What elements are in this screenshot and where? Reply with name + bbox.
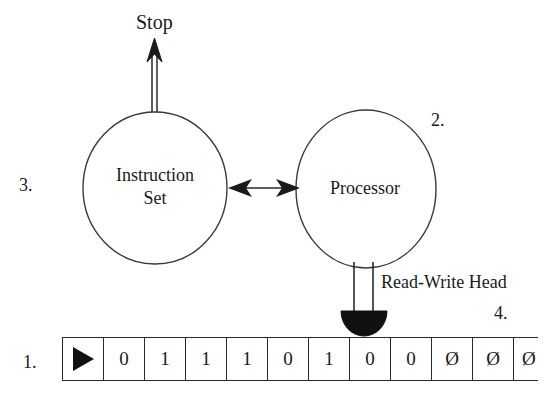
bidirectional-link-arrow	[228, 179, 300, 197]
tape-cell-value: 0	[119, 348, 129, 370]
tape-cell[interactable]: 1	[145, 338, 186, 380]
tape-cell[interactable]: 0	[104, 338, 145, 380]
head-connector	[354, 262, 373, 316]
processor-label: Processor	[313, 178, 417, 199]
tape-cell[interactable]: Ø	[514, 338, 538, 380]
tape-cell[interactable]: 1	[186, 338, 227, 380]
instruction-set-label: Instruction Set	[103, 164, 207, 209]
stop-arrow	[147, 38, 162, 113]
tape-cell-value: 0	[283, 348, 293, 370]
tape-cell-value: 0	[406, 348, 416, 370]
tape-cell-value: 1	[324, 348, 334, 370]
tape-cell-value: 0	[365, 348, 375, 370]
tape-cell[interactable]: 0	[391, 338, 432, 380]
read-write-head-label: Read-Write Head	[381, 272, 507, 293]
tape-start-marker-cell[interactable]	[63, 338, 104, 380]
instruction-set-label-line2: Set	[103, 187, 207, 210]
start-triangle-icon	[73, 347, 94, 371]
callout-2: 2.	[431, 110, 445, 131]
stop-label: Stop	[136, 11, 173, 34]
read-write-head-icon[interactable]	[341, 311, 387, 336]
tape-cell[interactable]: Ø	[473, 338, 514, 380]
instruction-set-label-line1: Instruction	[103, 164, 207, 187]
diagram-canvas: Stop Instruction Set Processor Read-Writ…	[0, 0, 558, 397]
callout-3: 3.	[19, 175, 33, 196]
callout-1: 1.	[23, 352, 37, 373]
tape-cell[interactable]: Ø	[432, 338, 473, 380]
tape-cell[interactable]: 1	[227, 338, 268, 380]
tape-cell[interactable]: 1	[309, 338, 350, 380]
tape-cell[interactable]: 0	[268, 338, 309, 380]
tape-cell-value: Ø	[522, 348, 536, 370]
tape-cell-value: Ø	[486, 348, 500, 370]
callout-4: 4.	[494, 303, 508, 324]
tape: 01110100ØØØ	[62, 337, 538, 381]
tape-cell-value: 1	[160, 348, 170, 370]
tape-cell[interactable]: 0	[350, 338, 391, 380]
tape-cell-value: 1	[201, 348, 211, 370]
tape-cell-value: 1	[242, 348, 252, 370]
tape-cell-value: Ø	[445, 348, 459, 370]
